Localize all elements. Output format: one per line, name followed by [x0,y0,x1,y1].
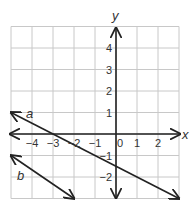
x-tick-label: −2 [68,137,81,149]
x-tick-label: −3 [47,137,60,149]
x-tick-label: −4 [26,137,39,149]
y-tick-label: 2 [106,85,112,97]
y-tick-label: −1 [99,150,112,162]
y-tick-label: 3 [106,64,112,76]
x-axis-label: x [181,127,189,142]
x-tick-label: 1 [134,137,140,149]
line-b-label: b [17,168,24,183]
y-tick-label: −2 [99,171,112,183]
coordinate-plane: x y −4−3−2−1012 4321−1−2 a b [0,0,193,220]
y-tick-label: 1 [106,107,112,119]
x-tick-labels: −4−3−2−1012 [26,137,161,149]
x-tick-label: 2 [155,137,161,149]
x-tick-label: −1 [89,137,102,149]
y-axis-label: y [111,8,120,23]
x-tick-label: 0 [117,137,123,149]
y-tick-label: 4 [106,42,112,54]
line-a-label: a [26,106,33,121]
